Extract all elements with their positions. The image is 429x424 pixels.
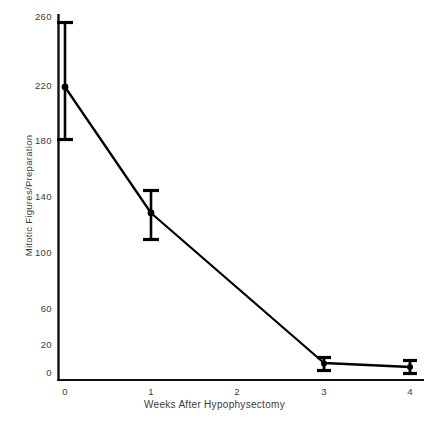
x-tick-label-0: 0 [53,386,77,397]
y-tick-label-0: 0 [22,367,52,378]
data-line [65,87,410,367]
data-point-week-3 [321,361,327,367]
y-axis-title: Mitotic Figures/Preparation [23,116,34,276]
data-point-week-4 [407,364,413,370]
y-tick-label-20: 20 [22,339,52,350]
y-tick-label-260: 260 [22,11,52,22]
y-tick-label-60: 60 [22,303,52,314]
series-polyline [65,87,410,367]
x-axis-title: Weeks After Hypophysectomy [0,399,429,410]
data-point-week-0 [62,84,69,91]
x-tick-label-1: 1 [139,386,163,397]
x-tick-label-3: 3 [312,386,336,397]
y-tick-label-220: 220 [22,80,52,91]
x-tick-label-2: 2 [225,386,249,397]
data-point-week-1 [148,210,155,217]
data-point-markers [62,84,413,370]
plot-area [0,0,429,424]
axis-lines [57,14,424,381]
error-bars [57,22,417,374]
figure-caption [18,414,418,424]
x-tick-label-4: 4 [398,386,422,397]
figure-container: 260 220 180 140 100 60 20 0 0 1 2 3 4 Mi… [0,0,429,424]
